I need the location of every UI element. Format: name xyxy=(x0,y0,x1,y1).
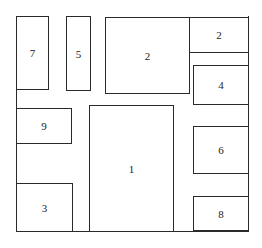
box-6: 6 xyxy=(193,126,249,174)
box-label: 9 xyxy=(41,120,47,132)
box-4: 4 xyxy=(193,65,249,105)
box-9: 9 xyxy=(16,108,72,144)
box-label: 4 xyxy=(218,79,224,91)
box-1: 1 xyxy=(89,105,174,232)
box-7: 7 xyxy=(16,16,49,90)
box-3: 3 xyxy=(16,183,73,232)
box-label: 7 xyxy=(30,47,36,59)
box-8: 8 xyxy=(193,196,249,231)
box-label: 3 xyxy=(42,202,48,214)
box-label: 6 xyxy=(218,144,224,156)
box-2-large: 2 xyxy=(105,17,190,94)
box-label: 8 xyxy=(218,208,224,220)
box-label: 2 xyxy=(216,29,222,41)
box-label: 1 xyxy=(129,163,135,175)
box-label: 2 xyxy=(145,50,151,62)
box-5: 5 xyxy=(66,16,91,91)
box-2-small: 2 xyxy=(189,17,249,53)
box-label: 5 xyxy=(76,48,82,60)
